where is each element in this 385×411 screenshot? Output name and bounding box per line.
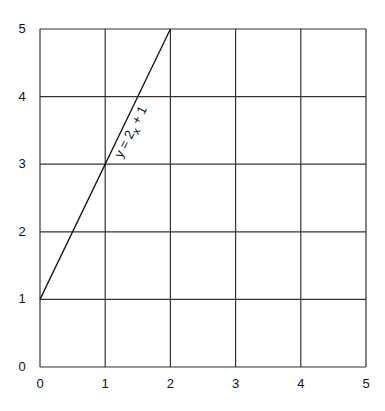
x-tick-label: 0 bbox=[36, 376, 43, 391]
chart: 012345012345y = 2x + 1 bbox=[0, 0, 385, 411]
x-tick-label: 4 bbox=[297, 376, 304, 391]
x-tick-label: 3 bbox=[232, 376, 239, 391]
x-tick-label: 1 bbox=[102, 376, 109, 391]
equation-label: y = 2x + 1 bbox=[111, 103, 153, 161]
y-tick-label: 1 bbox=[18, 291, 25, 306]
x-tick-label: 5 bbox=[362, 376, 369, 391]
y-tick-label: 3 bbox=[18, 156, 25, 171]
y-tick-label: 4 bbox=[18, 89, 25, 104]
y-tick-label: 0 bbox=[18, 359, 25, 374]
y-tick-label: 5 bbox=[18, 21, 25, 36]
y-tick-label: 2 bbox=[18, 224, 25, 239]
x-tick-label: 2 bbox=[167, 376, 174, 391]
